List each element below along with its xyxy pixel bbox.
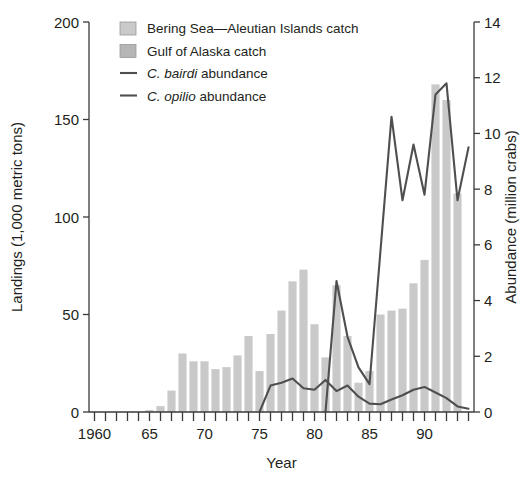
x-tick-label: 1960 bbox=[78, 425, 111, 442]
bar bbox=[266, 334, 274, 412]
bar bbox=[156, 406, 164, 412]
x-tick-label: 90 bbox=[416, 425, 433, 442]
bar bbox=[178, 354, 186, 413]
y-tick-label-right: 0 bbox=[484, 404, 492, 421]
x-tick-label: 70 bbox=[196, 425, 213, 442]
y-tick-label-right: 14 bbox=[484, 14, 501, 31]
bar bbox=[189, 361, 197, 412]
bar bbox=[310, 324, 318, 412]
y-axis-left-title: Landings (1,000 metric tons) bbox=[8, 122, 25, 312]
legend-item-label: Gulf of Alaska catch bbox=[147, 44, 266, 59]
x-tick-label: 80 bbox=[306, 425, 323, 442]
bar bbox=[442, 100, 450, 412]
bar bbox=[277, 311, 285, 412]
chart-figure: 050100150200024681012141960657075808590 … bbox=[0, 0, 531, 481]
y-tick-label-right: 6 bbox=[484, 236, 492, 253]
bar bbox=[167, 391, 175, 412]
y-tick-label-right: 2 bbox=[484, 348, 492, 365]
legend-item: Bering Sea—Aleutian Islands catch bbox=[120, 21, 359, 36]
bar bbox=[387, 311, 395, 412]
crab-landings-abundance-chart: 050100150200024681012141960657075808590 … bbox=[0, 0, 531, 481]
legend-item-label: C. bairdi abundance bbox=[147, 66, 268, 81]
legend-item-label: C. opilio abundance bbox=[147, 89, 266, 104]
y-tick-label-right: 8 bbox=[484, 181, 492, 198]
y-tick-label-left: 200 bbox=[54, 14, 79, 31]
legend-swatch-icon bbox=[120, 45, 136, 58]
x-axis-title: Year bbox=[266, 454, 296, 471]
y-tick-label-right: 12 bbox=[484, 69, 501, 86]
x-tick-label: 65 bbox=[141, 425, 158, 442]
y-tick-label-left: 100 bbox=[54, 209, 79, 226]
bar bbox=[244, 336, 252, 412]
bar bbox=[376, 315, 384, 413]
legend-item-label: Bering Sea—Aleutian Islands catch bbox=[147, 21, 359, 36]
bar bbox=[409, 283, 417, 412]
bar bbox=[453, 194, 461, 412]
y-tick-label-right: 10 bbox=[484, 125, 501, 142]
legend-swatch-icon bbox=[120, 22, 136, 35]
bar bbox=[233, 355, 241, 412]
bar bbox=[288, 281, 296, 412]
bar bbox=[200, 361, 208, 412]
x-tick-label: 85 bbox=[361, 425, 378, 442]
y-tick-label-left: 150 bbox=[54, 111, 79, 128]
bar bbox=[431, 84, 439, 412]
bar bbox=[299, 270, 307, 412]
y-axis-right-title: Abundance (million crabs) bbox=[502, 130, 519, 303]
y-tick-label-right: 4 bbox=[484, 292, 492, 309]
y-tick-label-left: 0 bbox=[71, 404, 79, 421]
bar bbox=[222, 367, 230, 412]
bar bbox=[211, 369, 219, 412]
x-tick-label: 75 bbox=[251, 425, 268, 442]
y-tick-label-left: 50 bbox=[62, 306, 79, 323]
